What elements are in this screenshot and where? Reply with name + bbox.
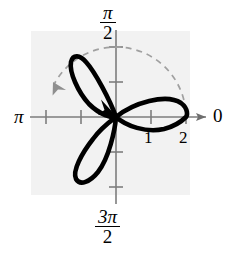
pi-over-two-denominator: 2 bbox=[100, 22, 116, 42]
three-pi-over-two-denominator: 2 bbox=[95, 226, 120, 246]
tick-label-two: 2 bbox=[179, 129, 188, 146]
axis-label-zero: 0 bbox=[213, 106, 223, 125]
three-pi-over-two-numerator: 3π bbox=[95, 207, 120, 226]
axis-label-three-pi-over-two: 3π 2 bbox=[95, 207, 120, 246]
axis-label-pi: π bbox=[14, 107, 24, 126]
axis-label-pi-over-two: π 2 bbox=[100, 3, 116, 42]
pi-over-two-numerator: π bbox=[100, 3, 116, 22]
tick-label-one: 1 bbox=[144, 129, 153, 146]
polar-plot-figure: π 2 3π 2 π 0 1 2 bbox=[0, 0, 237, 260]
